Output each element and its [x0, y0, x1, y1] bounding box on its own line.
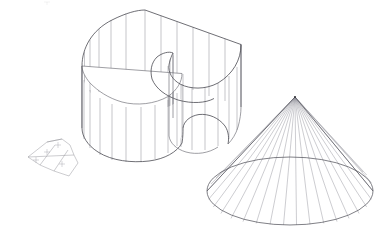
flat-pattern-piece	[28, 139, 78, 177]
drawing-canvas	[0, 0, 391, 245]
cone-object	[207, 96, 373, 225]
cone-apex-point	[294, 96, 296, 98]
flat-pattern-fill	[28, 139, 78, 177]
curved-wall-surface	[82, 10, 241, 162]
corner-registration-mark	[44, 2, 50, 5]
right-lobe-bottom-rim-far	[228, 107, 241, 144]
technical-line-drawing	[0, 0, 391, 245]
